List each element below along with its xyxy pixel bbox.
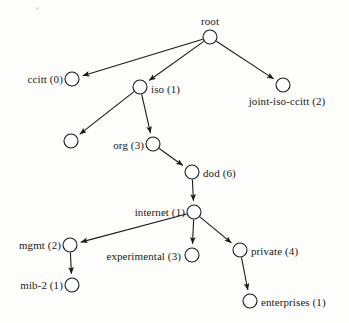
node-label-ccitt: ccitt (0) — [28, 74, 63, 85]
tree-node-mib-2[interactable] — [65, 278, 79, 292]
node-label-private: private (4) — [251, 246, 298, 257]
tree-edge-iso-to-iso-unlabeled — [80, 92, 134, 134]
node-label-org: org (3) — [113, 140, 144, 151]
node-label-experimental: experimental (3) — [106, 251, 181, 262]
oid-tree-diagram: rootccitt (0)iso (1)joint-iso-ccitt (2)o… — [0, 0, 349, 323]
tree-node-experimental[interactable] — [185, 248, 199, 262]
scan-speck-0 — [36, 7, 39, 10]
tree-graphics — [0, 0, 349, 323]
tree-edge-org-to-dod — [159, 148, 183, 165]
node-label-enterprises: enterprises (1) — [261, 297, 326, 308]
tree-node-dod[interactable] — [185, 165, 199, 179]
tree-node-mgmt[interactable] — [63, 238, 77, 252]
tree-node-enterprises[interactable] — [243, 294, 257, 308]
tree-edge-dod-to-internet — [192, 180, 193, 201]
tree-edge-private-to-enterprises — [241, 257, 247, 290]
node-label-root: root — [201, 16, 219, 27]
node-label-joint-iso-ccitt: joint-iso-ccitt (2) — [249, 96, 326, 107]
tree-node-joint-iso-ccitt[interactable] — [276, 78, 290, 92]
node-label-iso: iso (1) — [151, 84, 180, 95]
tree-node-private[interactable] — [233, 243, 247, 257]
tree-edge-iso-to-org — [142, 94, 151, 133]
tree-node-internet[interactable] — [187, 205, 201, 219]
tree-node-org[interactable] — [146, 137, 160, 151]
tree-edge-root-to-joint-iso-ccitt — [216, 41, 273, 79]
tree-node-root[interactable] — [203, 30, 217, 44]
tree-edge-root-to-ccitt — [83, 39, 203, 76]
tree-edge-internet-to-private — [200, 217, 232, 243]
node-label-mib-2: mib-2 (1) — [20, 280, 63, 291]
node-label-internet: internet (1) — [135, 207, 185, 218]
tree-edge-internet-to-mgmt — [81, 214, 187, 242]
tree-edge-internet-to-experimental — [193, 220, 194, 244]
node-label-mgmt: mgmt (2) — [19, 240, 61, 251]
tree-node-iso-unlabeled[interactable] — [64, 134, 78, 148]
tree-edge-mgmt-to-mib-2 — [70, 253, 71, 274]
tree-node-iso[interactable] — [133, 80, 147, 94]
node-label-dod: dod (6) — [203, 168, 236, 179]
tree-node-ccitt[interactable] — [65, 72, 79, 86]
